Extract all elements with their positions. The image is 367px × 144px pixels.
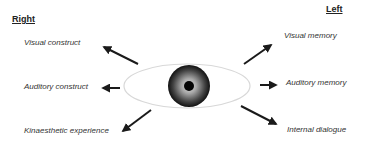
eye-icon — [124, 64, 250, 108]
eye-pupil — [184, 81, 194, 91]
eye-diagram — [0, 0, 367, 144]
arrow-down-left-icon — [123, 110, 151, 131]
arrow-down-right-icon — [241, 106, 276, 124]
arrow-up-right-icon — [244, 45, 271, 64]
arrow-up-left-icon — [104, 47, 138, 64]
